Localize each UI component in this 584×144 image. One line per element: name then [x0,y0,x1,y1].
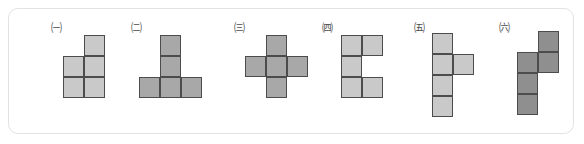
shape-option-label-3: ㈢ [232,22,246,36]
polyomino-cell [341,35,362,56]
polyomino-cell [341,56,362,77]
polyomino-plus-pentomino [245,35,308,98]
shape-option-label-4: ㈣ [320,22,334,36]
polyomino-cell [432,75,453,96]
polyomino-cell [139,77,160,98]
polyomino-cell [341,77,362,98]
shape-option-4[interactable]: ㈣ [316,9,398,135]
polyomino-y-pentomino [432,33,474,117]
polyomino-cell [63,77,84,98]
polyomino-cell [453,54,474,75]
polyomino-cell [266,35,287,56]
polyomino-cell [538,52,559,73]
polyomino-cell [84,35,105,56]
polyomino-cell [432,54,453,75]
polyomino-cell [63,56,84,77]
polyomino-p-pentomino [63,35,105,98]
shape-options-panel: ㈠㈡㈢㈣㈤㈥ [8,8,574,134]
shape-option-5[interactable]: ㈤ [408,9,490,135]
polyomino-cell [432,96,453,117]
polyomino-cell [84,56,105,77]
polyomino-cell [160,56,181,77]
polyomino-cell [266,77,287,98]
shape-option-label-6: ㈥ [497,22,511,36]
polyomino-cell [84,77,105,98]
polyomino-cell [245,56,266,77]
shape-option-6[interactable]: ㈥ [493,9,575,135]
shape-option-2[interactable]: ㈡ [121,9,224,135]
shape-option-label-5: ㈤ [412,22,426,36]
polyomino-cell [362,35,383,56]
polyomino-cell [432,33,453,54]
polyomino-cell [517,73,538,94]
screenshot-root: ㈠㈡㈢㈣㈤㈥ [0,0,584,144]
polyomino-cell [160,77,181,98]
polyomino-cell [517,94,538,115]
polyomino-cell [181,77,202,98]
polyomino-cell [362,77,383,98]
polyomino-cell [538,31,559,52]
polyomino-t-pentomino [139,35,202,98]
shape-option-1[interactable]: ㈠ [41,9,123,135]
polyomino-c-pentomino [341,35,383,98]
shape-option-label-2: ㈡ [129,22,143,36]
shape-option-label-1: ㈠ [49,22,63,36]
polyomino-cell [287,56,308,77]
polyomino-n-pentomino [517,31,559,115]
polyomino-cell [266,56,287,77]
polyomino-cell [160,35,181,56]
polyomino-cell [517,52,538,73]
